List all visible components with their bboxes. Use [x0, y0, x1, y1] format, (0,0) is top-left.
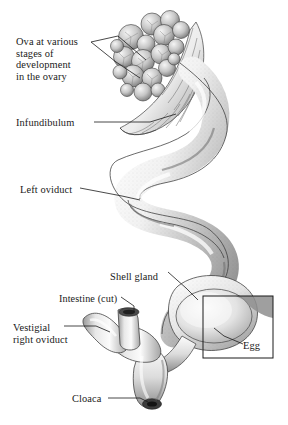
- anatomical-figure: Ova at various stages of development in …: [0, 0, 288, 425]
- label-left-oviduct: Left oviduct: [20, 184, 72, 196]
- label-intestine-cut: Intestine (cut): [59, 293, 117, 305]
- label-ova-at-various-stages: Ova at various stages of development in …: [16, 36, 78, 82]
- label-vestigial-right-oviduct: Vestigial right oviduct: [13, 322, 68, 345]
- label-shell-gland: Shell gland: [110, 271, 158, 283]
- intestine-stub: [118, 308, 140, 350]
- label-egg: Egg: [243, 340, 260, 352]
- label-cloaca: Cloaca: [72, 393, 101, 405]
- label-infundibulum: Infundibulum: [16, 117, 74, 129]
